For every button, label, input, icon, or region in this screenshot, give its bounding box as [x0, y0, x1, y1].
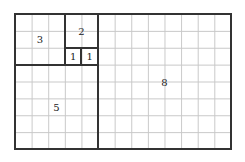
- square-label: 1: [87, 51, 93, 62]
- square-label: 5: [53, 101, 59, 112]
- square-label: 2: [78, 25, 84, 36]
- square-label: 8: [161, 76, 167, 87]
- square-label: 3: [37, 34, 43, 45]
- square-label: 1: [70, 51, 76, 62]
